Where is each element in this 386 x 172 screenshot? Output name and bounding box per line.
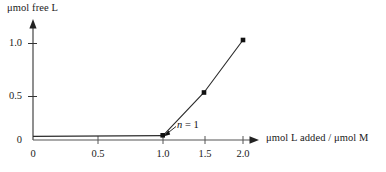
x-tick-label-1-5: 1.5 [190,149,220,160]
y-tick-label-0-5: 0.5 [0,91,22,102]
x-tick-label-0-5: 0.5 [83,149,113,160]
y-axis [28,19,37,140]
plot-canvas [0,0,386,172]
data-point-marker [241,38,246,43]
x-axis-title: μmol L added / μmol M [266,133,369,144]
x-tick-label-2-0: 2.0 [228,149,258,160]
x-tick-label-0: 0 [18,149,48,160]
y-axis-title: μmol free L [7,3,58,14]
chart-figure: μmol free L μmol L added / μmol M [0,0,386,172]
series-segment-rise [163,40,243,136]
data-point-marker [202,90,207,95]
data-series-free-l [33,38,245,138]
x-axis-arrowhead [250,136,260,143]
series-segment-plateau [33,136,163,137]
x-tick-label-1-0: 1.0 [148,149,178,160]
data-point-marker [160,133,165,138]
x-axis [33,136,259,144]
y-tick-label-0: 0 [0,135,22,146]
y-tick-label-1-0: 1.0 [0,38,22,49]
annotation-value: 1 [193,119,198,130]
annotation-symbol: n [177,119,182,130]
y-axis-arrowhead [29,19,36,29]
annotation-n-equals-1: n = 1 [177,120,199,131]
annotation-relation: = [185,119,191,130]
